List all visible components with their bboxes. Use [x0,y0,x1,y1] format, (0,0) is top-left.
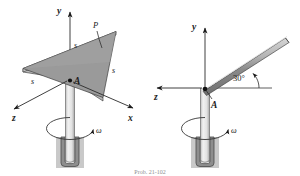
angle-arc [253,74,259,89]
left-point-A-marker [68,78,72,82]
plate-side-label-top: s [74,41,77,50]
rod-highlight [204,37,287,90]
plate-label-P: P [92,20,98,30]
right-y-axis-label: y [191,22,197,32]
angle-label-30deg: 30° [233,73,245,83]
right-z-axis: z [153,88,202,102]
left-omega-label: ω [96,126,102,135]
right-angle-indicator: 30° [233,73,259,88]
plate-side-label-left: s [31,77,34,86]
right-z-axis-label: z [153,92,158,102]
figure-container: y P s s s A [0,0,300,176]
left-x-axis-label: x [127,113,133,123]
right-shaft-body [201,88,210,162]
right-point-A-marker [203,87,208,92]
right-vertical-shaft [201,88,210,162]
plate-side-label-right: s [112,66,115,75]
left-vertical-shaft [66,76,75,162]
right-y-axis: y [191,22,205,92]
right-omega-label: ω [231,126,237,135]
left-shaft-body [66,76,75,162]
left-figure-group: y P s s s A [11,6,133,168]
engineering-figure: y P s s s A [0,0,300,176]
left-z-axis: z [11,81,67,123]
rod-body [203,38,289,96]
left-z-axis-line [14,81,67,109]
right-inclined-rod [203,37,289,96]
right-figure-group: y 30° z A [153,22,289,168]
figure-caption: Prob. 21-102 [134,169,165,175]
right-point-A-label: A [210,100,217,110]
left-z-axis-label: z [11,113,16,123]
left-y-axis-label: y [56,6,62,16]
